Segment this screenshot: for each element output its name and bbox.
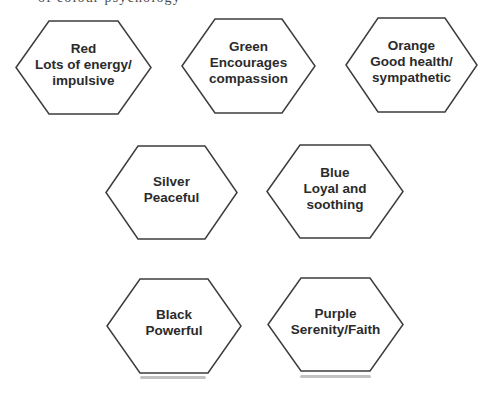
hexagon-black-label: Black Powerful — [107, 279, 241, 373]
hexagon-black-description: Powerful — [145, 323, 202, 339]
hexagon-blue-description: Loyal and soothing — [303, 181, 366, 213]
hexagon-blue-title: Blue — [320, 165, 349, 181]
hexagon-orange-description: Good health/ sympathetic — [370, 54, 453, 86]
hexagon-silver-title: Silver — [153, 174, 190, 190]
color-psychology-diagram: of colour psychology Red Lots of energy/… — [0, 0, 499, 396]
hexagon-purple-label: Purple Serenity/Faith — [268, 278, 403, 371]
hexagon-red-label: Red Lots of energy/ impulsive — [16, 21, 151, 114]
hexagon-silver-description: Peaceful — [144, 190, 200, 206]
hexagon-purple-title: Purple — [314, 306, 356, 322]
hexagon-red-title: Red — [71, 41, 97, 57]
hexagon-blue-label: Blue Loyal and soothing — [267, 145, 403, 238]
hexagon-green-title: Green — [229, 39, 268, 55]
hexagon-black-title: Black — [156, 307, 192, 323]
hexagon-green-label: Green Encourages compassion — [182, 19, 315, 113]
hexagon-silver-label: Silver Peaceful — [106, 146, 237, 239]
hexagon-purple-description: Serenity/Faith — [291, 322, 380, 338]
scan-artifact-smudge-left — [140, 376, 206, 379]
hexagon-green-description: Encourages compassion — [209, 55, 288, 87]
hexagon-red-description: Lots of energy/ impulsive — [35, 57, 132, 89]
scan-artifact-smudge-right — [300, 375, 371, 378]
hexagon-orange-title: Orange — [388, 38, 435, 54]
hexagon-orange-label: Orange Good health/ sympathetic — [346, 18, 477, 112]
